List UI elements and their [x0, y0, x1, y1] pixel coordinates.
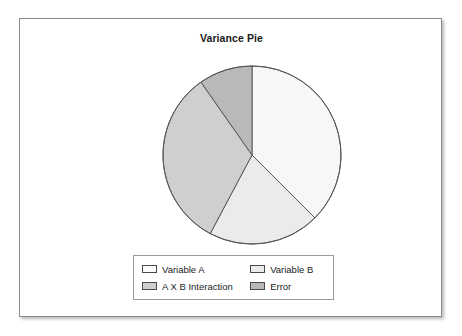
chart-legend: Variable A Variable B A X B Interaction …	[133, 255, 334, 300]
legend-label: A X B Interaction	[162, 281, 233, 292]
legend-item-variable-b[interactable]: Variable B	[250, 262, 326, 276]
legend-label: Error	[270, 281, 291, 292]
legend-label: Variable B	[270, 264, 313, 275]
legend-swatch-icon	[142, 265, 157, 273]
pie-chart-svg	[149, 55, 355, 255]
pie-slice-group	[163, 66, 341, 244]
legend-row: A X B Interaction Error	[142, 279, 326, 293]
legend-item-error[interactable]: Error	[250, 279, 326, 293]
page-root: Variance Pie Variable A Variable B	[0, 0, 462, 336]
legend-swatch-icon	[250, 282, 265, 290]
legend-item-variable-a[interactable]: Variable A	[142, 262, 250, 276]
legend-swatch-icon	[142, 282, 157, 290]
page-title: Variance Pie	[20, 32, 443, 44]
legend-label: Variable A	[162, 264, 205, 275]
pie-chart	[149, 55, 355, 255]
chart-panel: Variance Pie Variable A Variable B	[19, 18, 442, 317]
legend-swatch-icon	[250, 265, 265, 273]
legend-row: Variable A Variable B	[142, 262, 326, 276]
legend-item-axb-interaction[interactable]: A X B Interaction	[142, 279, 250, 293]
